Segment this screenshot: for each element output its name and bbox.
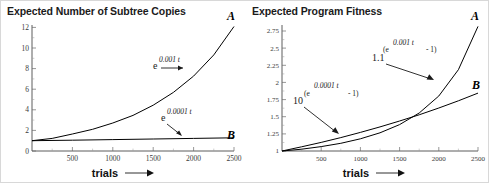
annotation-curve-b-right: 10 (e 0.0001 t - 1)	[293, 81, 359, 134]
annotation-curve-a-left: e 0.001 t	[153, 55, 183, 71]
annotation-a-arrowhead-right	[427, 74, 434, 80]
annotation-b-exponent: 0.0001 t	[167, 107, 193, 116]
y-tick-label: 1.5	[270, 113, 279, 121]
curve-a-left	[32, 27, 234, 141]
annotation-curve-b-left: e 0.0001 t	[161, 107, 193, 136]
x-tick-label: 1500	[146, 154, 161, 163]
y-tick-label: 2	[276, 79, 280, 87]
y-tick-label: 1.25	[267, 130, 280, 138]
y-tick-label: 2	[25, 126, 29, 135]
x-tick-label: 2000	[186, 154, 201, 163]
curve-b-left	[32, 138, 234, 141]
plot-right-svg: 2.75 2.5 2.25 2 1.75 1.5 1.25 1	[246, 1, 489, 183]
x-tick-label: 2500	[471, 155, 486, 163]
x-axis-label: trials	[343, 167, 369, 179]
x-axis-label: trials	[92, 167, 118, 179]
x-tick-label: 500	[316, 155, 327, 163]
annotation-b-base: e	[161, 112, 166, 123]
x-ticks-left	[72, 147, 234, 151]
x-tick-label: 500	[67, 154, 79, 163]
annotation-b-base: 10	[293, 95, 303, 106]
y-tick-label: 4	[25, 105, 29, 114]
x-tick-label: 2000	[432, 155, 447, 163]
curve-label-a-left: A	[226, 9, 235, 23]
annotation-b-arrowhead-right	[332, 127, 339, 134]
annotation-a-exponent: 0.001 t	[393, 38, 415, 47]
x-axis-arrowhead-left	[147, 170, 154, 177]
y-tick-label: 1	[276, 147, 280, 155]
annotation-a-paren-open: (e	[383, 45, 389, 54]
y-tick-label: 12	[22, 23, 30, 32]
annotation-b-paren-close: - 1)	[348, 89, 359, 98]
chart-panel-left: Expected Number of Subtree Copies	[1, 1, 245, 183]
x-axis-label-group-left: trials	[92, 167, 154, 179]
annotation-a-arrow-right	[386, 64, 431, 79]
curve-a-right	[282, 26, 478, 151]
annotation-a-exponent: 0.001 t	[159, 55, 181, 64]
y-tick-label: 2.25	[267, 62, 280, 70]
y-tick-label: 2.75	[267, 27, 280, 35]
y-tick-label: 1.75	[267, 96, 280, 104]
chart-panel-right: Expected Program Fitness	[246, 1, 489, 183]
y-tick-label: 8	[25, 64, 29, 73]
y-tick-label: 10	[22, 44, 30, 53]
curve-label-b-right: B	[471, 78, 480, 92]
x-tick-label: 1000	[353, 155, 368, 163]
x-tick-label: 1000	[105, 154, 120, 163]
y-tick-label: 2.5	[270, 45, 279, 53]
annotation-b-arrow-right	[304, 107, 336, 132]
annotation-b-exponent: 0.0001 t	[314, 81, 340, 90]
figure-root: Expected Number of Subtree Copies	[0, 0, 489, 183]
x-axis-arrowhead-right	[398, 170, 405, 177]
plot-left-svg: 12 10 8 6 4 2 0 5	[1, 1, 245, 183]
x-tick-label: 1500	[393, 155, 408, 163]
curve-label-a-right: A	[470, 9, 479, 23]
annotation-a-arrowhead-left	[178, 66, 183, 71]
curve-b-right	[282, 93, 478, 151]
x-tick-label: 2500	[227, 154, 242, 163]
x-ticks-right	[321, 147, 478, 151]
y-tick-label: 6	[25, 85, 29, 94]
y-ticks-left	[32, 27, 36, 151]
y-tick-label: 0	[25, 147, 29, 156]
annotation-a-paren-close: - 1)	[426, 45, 437, 54]
x-axis-label-group-right: trials	[343, 167, 405, 179]
annotation-curve-a-right: 1.1 (e 0.001 t - 1)	[372, 38, 437, 80]
annotation-a-base: e	[153, 60, 158, 71]
annotation-b-paren-open: (e	[304, 89, 310, 98]
curve-label-b-left: B	[226, 128, 235, 142]
